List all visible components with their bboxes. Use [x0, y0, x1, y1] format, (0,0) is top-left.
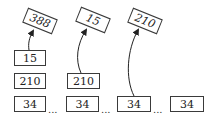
pointer-2: 15: [76, 7, 110, 73]
stack-4: 34: [171, 97, 204, 112]
stack-2: 210 34: [67, 74, 100, 112]
svg-text:210: 210: [73, 75, 94, 88]
pointer-1: 388: [23, 8, 57, 50]
diagram-canvas: 15 210 34 210 34 34 34: [0, 0, 210, 123]
cell-stack1-bottom: 34: [15, 97, 46, 112]
pointer-box-2: 15: [76, 7, 110, 33]
pointer-arrow-3: [128, 30, 138, 96]
cell-stack1-middle: 210: [15, 74, 46, 89]
cell-stack2-bottom: 34: [67, 97, 99, 112]
cell-stack3-bottom: 34: [118, 97, 151, 112]
pointer-arrow-2: [78, 30, 86, 73]
stack-3: 34: [118, 97, 151, 112]
svg-text:34: 34: [23, 98, 37, 111]
ellipsis-1: ...: [48, 104, 58, 115]
svg-text:34: 34: [127, 98, 141, 111]
svg-text:210: 210: [20, 75, 41, 88]
ellipsis-3: ...: [153, 104, 163, 115]
cell-stack2-top: 210: [68, 74, 100, 89]
stack-1: 15 210 34: [15, 51, 46, 112]
pointer-3: 210: [128, 8, 162, 96]
svg-text:34: 34: [180, 98, 194, 111]
cell-stack1-top: 15: [15, 51, 46, 66]
svg-text:15: 15: [23, 52, 37, 65]
pointer-box-1: 388: [23, 8, 57, 34]
pointer-arrow-1: [29, 31, 33, 50]
cell-stack4-bottom: 34: [171, 97, 204, 112]
pointer-box-3: 210: [128, 8, 162, 34]
ellipsis-2: ...: [101, 104, 111, 115]
svg-text:34: 34: [76, 98, 90, 111]
